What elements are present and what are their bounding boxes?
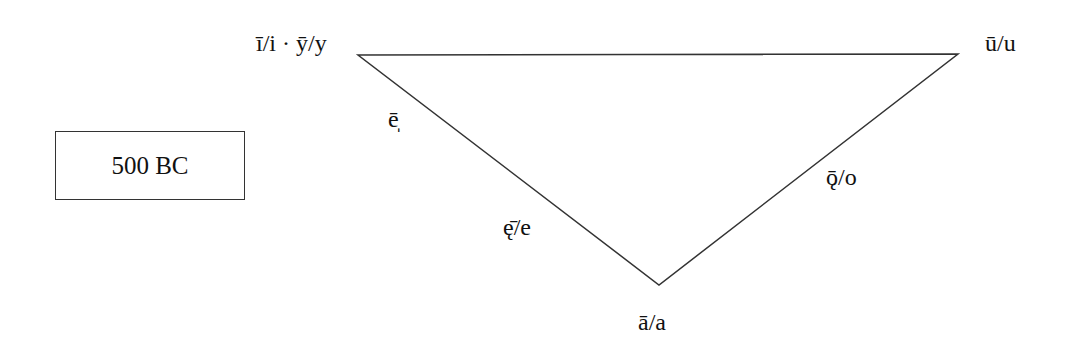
vertex-label-back-high: ū/u: [985, 31, 1016, 55]
period-label: 500 BC: [111, 152, 188, 180]
vertex-label-front-high: ī/i · ȳ/y: [256, 31, 327, 55]
triangle-outline: [358, 54, 958, 285]
period-box: 500 BC: [55, 131, 245, 200]
edge-label-back-mid: ǭ/o: [826, 165, 857, 189]
edge-label-open-mid-front: ę̄/e: [503, 215, 531, 239]
vertex-label-low: ā/a: [638, 310, 666, 334]
edge-label-close-mid-front: ē̩: [388, 107, 399, 131]
